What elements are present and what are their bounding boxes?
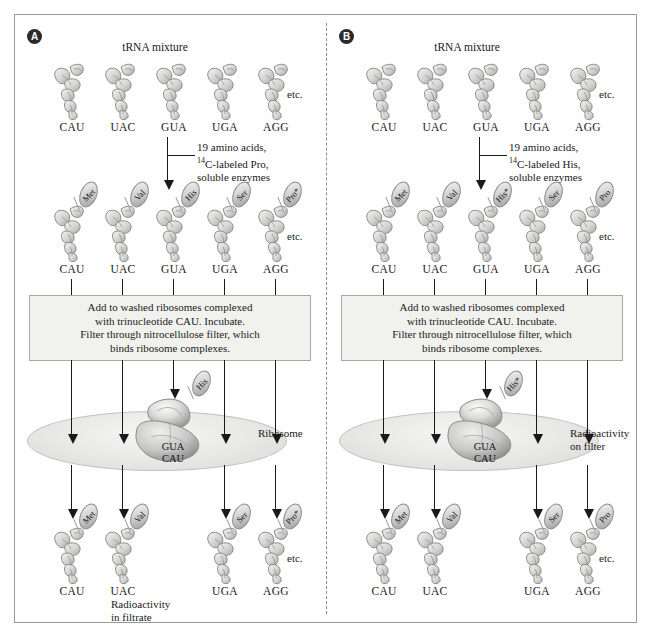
amino-acid-label: Met — [80, 508, 97, 525]
anticodon-label: CAU — [59, 263, 84, 275]
filtrate-arrow-upper — [587, 360, 588, 435]
instruction-line-2: with trinucleotide CAU. Incubate. — [348, 315, 616, 329]
uncharged-row-trna: GUA — [464, 59, 508, 121]
reagent-arrow — [479, 137, 480, 181]
charged-row-trna: MetCAU — [50, 201, 94, 263]
instruction-feed-line — [536, 279, 537, 295]
anticodon-label: UAC — [422, 121, 447, 133]
anticodon-label: CAU — [371, 263, 396, 275]
amino-acid-label: Met — [392, 508, 409, 525]
anticodon-label: CAU — [59, 585, 84, 597]
result-label-line-2: in filtrate — [111, 611, 170, 624]
anticodon-label: UGA — [524, 263, 550, 275]
result-label: Radioactivityin filtrate — [111, 598, 170, 624]
anticodon-label: GUA — [161, 121, 187, 133]
reagent-annotation: 19 amino acids,14C-labeled His,soluble e… — [509, 141, 582, 184]
charged-row-trna: HisGUA — [152, 201, 196, 263]
uncharged-row-trna: UAC — [101, 59, 145, 121]
reagent-line-3: soluble enzymes — [509, 171, 582, 184]
amino-acid-label: Pro — [597, 187, 612, 202]
amino-acid-label: Val — [444, 187, 459, 202]
ribosome-anticodon: GUA — [162, 441, 185, 453]
trna-glyph — [413, 59, 457, 121]
instruction-feed-line — [275, 279, 276, 295]
amino-acid-label: Ser — [234, 187, 249, 202]
instruction-line-1: Add to washed ribosomes complexed — [348, 301, 616, 315]
ribosome-anticodon: GUA — [474, 441, 497, 453]
amino-acid-label: Ser — [546, 187, 561, 202]
amino-acid-label: Pro — [597, 509, 612, 524]
anticodon-label: AGG — [263, 121, 289, 133]
uncharged-row-trna: CAU — [50, 59, 94, 121]
uncharged-row-trna: GUA — [152, 59, 196, 121]
isotope-number: 14 — [197, 156, 205, 165]
ribosome-codon-pair: GUACAU — [162, 441, 185, 464]
reagent-line-3: soluble enzymes — [197, 171, 270, 184]
etc-label-row1: etc. — [599, 88, 615, 100]
disc-side-label: Radioactivityon filter — [570, 427, 629, 453]
etc-label-row3: etc. — [599, 552, 615, 564]
tRNA-mixture-label: tRNA mixture — [122, 41, 188, 53]
instruction-line-1: Add to washed ribosomes complexed — [36, 301, 304, 315]
anticodon-label: UGA — [524, 585, 550, 597]
trna-glyph — [50, 59, 94, 121]
uncharged-row-trna: UAC — [413, 59, 457, 121]
uncharged-row-trna: UGA — [515, 59, 559, 121]
trna-glyph — [464, 59, 508, 121]
filtrate-row-trna: MetCAU — [50, 523, 94, 585]
trna-glyph — [50, 201, 94, 263]
anticodon-label: UAC — [422, 585, 447, 597]
charged-row-trna: ValUAC — [101, 201, 145, 263]
anticodon-label: CAU — [59, 121, 84, 133]
anticodon-label: UGA — [212, 121, 238, 133]
instruction-feed-line — [173, 279, 174, 295]
etc-label-row1: etc. — [287, 88, 303, 100]
filtrate-arrow-lower — [434, 465, 435, 510]
tRNA-mixture-label: tRNA mixture — [434, 41, 500, 53]
filtrate-row-trna: ValUAC — [101, 523, 145, 585]
anticodon-label: UGA — [212, 263, 238, 275]
anticodon-label: AGG — [263, 585, 289, 597]
reagent-tick — [167, 155, 195, 156]
ribosome-codon: CAU — [162, 453, 185, 465]
amino-acid-label: His* — [493, 185, 511, 204]
filtrate-arrow-lower — [536, 465, 537, 510]
charged-row-trna: SerUGA — [515, 201, 559, 263]
anticodon-label: CAU — [371, 121, 396, 133]
uncharged-row-trna: UGA — [203, 59, 247, 121]
filtrate-arrow-upper — [275, 360, 276, 435]
disc-label-line-1: Ribosome — [258, 427, 303, 440]
filtrate-arrow-lower — [122, 465, 123, 510]
filtrate-arrow-upper — [122, 360, 123, 435]
filtrate-arrow-lower — [383, 465, 384, 510]
anticodon-label: UAC — [110, 263, 135, 275]
bound-amino-acid-label: His — [194, 376, 209, 391]
trna-glyph — [50, 523, 94, 585]
amino-acid-label: Ser — [234, 509, 249, 524]
trna-glyph — [203, 523, 247, 585]
anticodon-label: CAU — [371, 585, 396, 597]
reagent-line-2: 14C-labeled His, — [509, 154, 582, 171]
trna-glyph — [203, 59, 247, 121]
filtrate-arrow-lower — [71, 465, 72, 510]
ribosome-codon: CAU — [474, 453, 497, 465]
instruction-feed-line — [224, 279, 225, 295]
filtrate-arrow-upper — [536, 360, 537, 435]
trna-glyph — [152, 201, 196, 263]
reagent-annotation: 19 amino acids,14C-labeled Pro,soluble e… — [197, 141, 270, 184]
ribosome-entry-arrow — [173, 360, 174, 390]
charged-row-trna: MetCAU — [362, 201, 406, 263]
amino-acid-label: Pro* — [283, 507, 301, 526]
amino-acid-label: Pro* — [283, 185, 301, 204]
anticodon-label: GUA — [473, 263, 499, 275]
ribosome-codon-pair: GUACAU — [474, 441, 497, 464]
amino-acid-label: Ser — [546, 509, 561, 524]
anticodon-label: UAC — [110, 121, 135, 133]
trna-glyph — [413, 523, 457, 585]
anticodon-label: GUA — [473, 121, 499, 133]
filtrate-row-trna: MetCAU — [362, 523, 406, 585]
etc-label-row3: etc. — [287, 552, 303, 564]
reagent-tick — [479, 155, 507, 156]
uncharged-row-trna: CAU — [362, 59, 406, 121]
anticodon-label: AGG — [575, 121, 601, 133]
